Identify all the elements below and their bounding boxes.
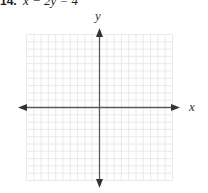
y-axis-down-arrow-icon — [96, 179, 103, 188]
x-axis-right-arrow-icon — [171, 104, 180, 111]
y-axis-up-arrow-icon — [96, 28, 103, 37]
coordinate-plane — [0, 0, 208, 193]
x-axis-left-arrow-icon — [18, 104, 27, 111]
